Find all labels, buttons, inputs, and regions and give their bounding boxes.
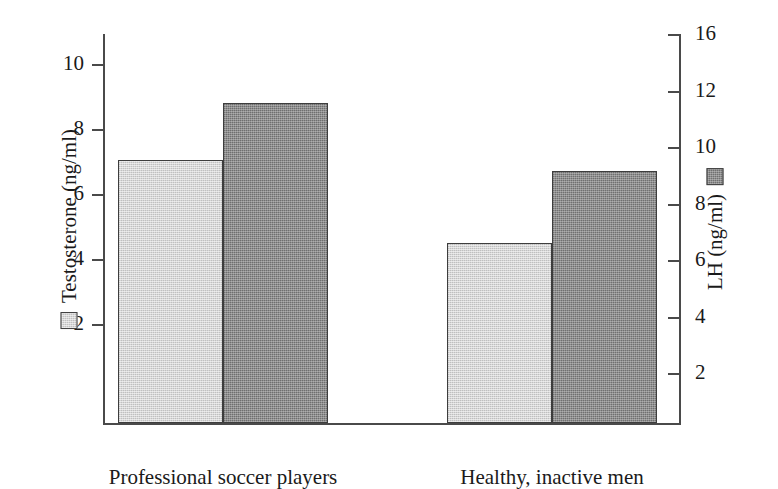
tick-right-12 xyxy=(668,91,681,93)
tick-right-8 xyxy=(668,204,681,206)
tick-label-left-10: 10 xyxy=(63,53,84,74)
y-axis-left-title: Testosterone (ng/ml) xyxy=(57,129,82,329)
tick-right-4 xyxy=(668,317,681,319)
bar-lh-soccer[interactable] xyxy=(223,103,328,423)
tick-left-10 xyxy=(92,64,105,66)
tick-left-6 xyxy=(92,194,105,196)
y-axis-right-title: LH (ng/ml) xyxy=(703,168,728,290)
tick-label-right-10: 10 xyxy=(695,136,716,157)
tick-left-4 xyxy=(92,259,105,261)
tick-right-16 xyxy=(668,34,681,36)
legend-swatch-lh xyxy=(707,168,724,185)
tick-right-2 xyxy=(668,373,681,375)
tick-label-right-12: 12 xyxy=(695,80,716,101)
legend-swatch-testosterone xyxy=(61,312,78,329)
tick-right-6 xyxy=(668,260,681,262)
tick-label-right-16: 16 xyxy=(695,23,716,44)
bar-lh-healthy[interactable] xyxy=(552,171,657,423)
x-axis-spine xyxy=(103,423,681,425)
y-axis-left-title-text: Testosterone (ng/ml) xyxy=(57,129,82,303)
tick-right-10 xyxy=(668,147,681,149)
bar-testosterone-soccer[interactable] xyxy=(118,160,223,423)
tick-label-right-4: 4 xyxy=(695,306,706,327)
tick-left-8 xyxy=(92,129,105,131)
tick-left-2 xyxy=(92,324,105,326)
y-axis-right-title-text: LH (ng/ml) xyxy=(703,194,728,290)
x-tick-label-healthy: Healthy, inactive men xyxy=(423,466,681,489)
bar-testosterone-healthy[interactable] xyxy=(447,243,552,423)
y-axis-left-spine xyxy=(103,34,105,425)
plot-area: 10 8 6 4 2 16 12 10 8 6 4 2 xyxy=(103,34,681,425)
x-tick-label-soccer: Professional soccer players xyxy=(88,466,358,489)
tick-label-right-2: 2 xyxy=(695,362,706,383)
